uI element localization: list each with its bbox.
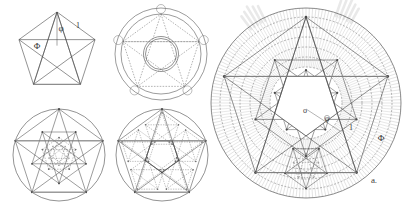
vertex-dot [154,141,156,143]
vertex-dot [176,157,178,159]
vertex-dot [305,188,307,190]
hatch-stroke [308,57,309,67]
vertex-dot [274,92,276,94]
vertex-dot [58,137,60,139]
vertex-dot [292,148,294,150]
label-phi-lower-main: φ [325,114,330,123]
vertex-dot [58,183,60,185]
vertex-dot [41,149,43,151]
vertex-dot [163,169,165,171]
vertex-dot [138,129,140,131]
vertex-dot [168,141,170,143]
label-phi-upper-main: Φ [378,133,385,143]
vertex-dot [58,108,60,110]
vertex-dot [254,118,256,120]
hatch-stroke [309,37,310,47]
vertex-dot [305,69,307,71]
vertex-dot [69,168,71,170]
vertex-dot [185,129,187,131]
vertex-dot [318,148,320,150]
label-phi-upper-top-left: Φ [34,41,41,51]
vertex-dot [195,161,197,163]
vertex-dot [85,163,87,165]
vertex-dot [148,161,150,163]
vertex-dot [178,124,180,126]
geometric-plate: φΦ1oφ1Φa. [0,0,403,210]
vertex-dot [121,141,123,143]
vertex-dot [130,169,132,171]
vertex-dot [75,131,77,133]
hatch-stroke [308,47,309,57]
vertex-dot [145,124,147,126]
vertex-dot [324,128,326,130]
vertex-dot [201,141,203,143]
vertex-dot [286,128,288,130]
label-one-main: 1 [349,123,353,132]
label-figure-caption-a: a. [371,175,377,185]
vertex-dot [186,188,188,190]
vertex-dot [31,163,33,165]
label-one-top-left: 1 [76,21,80,30]
hatch-stroke [240,106,250,107]
vertex-dot [166,188,168,190]
hatch-stroke [260,105,270,106]
vertex-dot [336,59,338,61]
label-center-o: o [303,106,307,115]
hatch-stroke [230,107,240,108]
plate-canvas: φΦ1oφ1Φa. [0,0,403,210]
vertex-dot [136,188,138,190]
hatch-stroke [250,106,260,107]
vertex-dot [48,168,50,170]
vertex-dot [274,59,276,61]
vertex-dot [355,118,357,120]
vertex-dot [157,188,159,190]
label-phi-lower-top-left: φ [58,23,63,33]
vertex-dot [161,112,163,114]
vertex-dot [41,131,43,133]
vertex-dot [75,149,77,151]
vertex-dot [336,92,338,94]
vertex-dot [161,108,163,110]
vertex-dot [127,161,129,163]
vertex-dot [192,169,194,171]
